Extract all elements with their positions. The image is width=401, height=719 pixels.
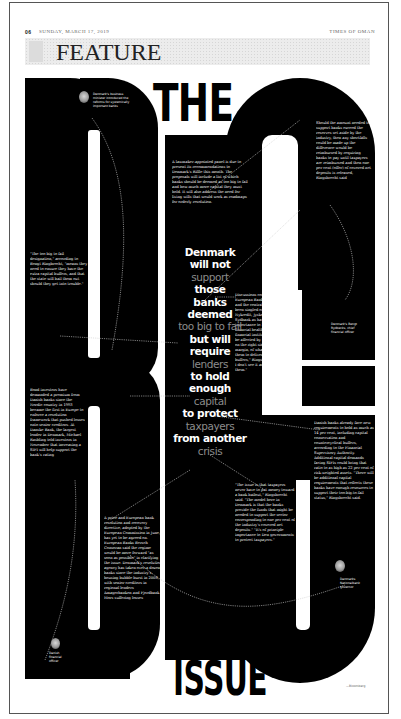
text-block-top-center: A lawmaker-appointed panel is due to pre… (172, 160, 248, 255)
pull-quote-line: Denmark (168, 246, 252, 258)
text-block-right-lower: Danish banks already face new requiremen… (314, 421, 374, 527)
text-block-center-lower: "The issue is that taxpayers never have … (235, 483, 295, 568)
portrait-caption: Denmark's business minister introduced t… (93, 92, 133, 108)
photo-credit: —Bloomberg (346, 684, 365, 688)
pull-quote: Denmark will not support those banks dee… (168, 246, 252, 457)
caption-right-mid: Denmark's Bengt Rydbecks, chief financia… (331, 322, 361, 334)
pull-quote-line: will not (168, 258, 252, 270)
pull-quote-line: but will (168, 333, 252, 345)
pull-quote-line: deemed (168, 308, 252, 320)
text-block-left-mid: Bond investors have demanded a premium f… (30, 388, 85, 480)
text-block-top-right: Should the amount needed to support bank… (316, 121, 372, 211)
pull-quote-line: support (168, 271, 252, 283)
pull-quote-line: capital (168, 395, 252, 407)
pull-quote-line: from another (168, 432, 252, 444)
portrait-photo (335, 560, 345, 572)
text-block-lower-left: A price and European bank resolution and… (104, 516, 162, 619)
pull-quote-line: taxpayers (168, 420, 252, 432)
pull-quote-line: lenders (168, 358, 252, 370)
text-block-left-quote: "The too big to fail designation," accor… (30, 252, 88, 294)
pull-quote-line: require (168, 345, 252, 357)
pull-quote-line: those (168, 283, 252, 295)
portrait-caption: Danmarks Nationalbank governor (340, 577, 360, 589)
pull-quote-line: crisis (168, 445, 252, 457)
pull-quote-line: too big to fail (168, 320, 252, 332)
portrait-photo (79, 91, 89, 103)
portrait-caption: Danish financial officer (49, 651, 67, 663)
pull-quote-line: to protect (168, 407, 252, 419)
portrait-photo (51, 638, 60, 649)
pull-quote-line: banks (168, 296, 252, 308)
pull-quote-line: to hold enough (168, 370, 252, 395)
